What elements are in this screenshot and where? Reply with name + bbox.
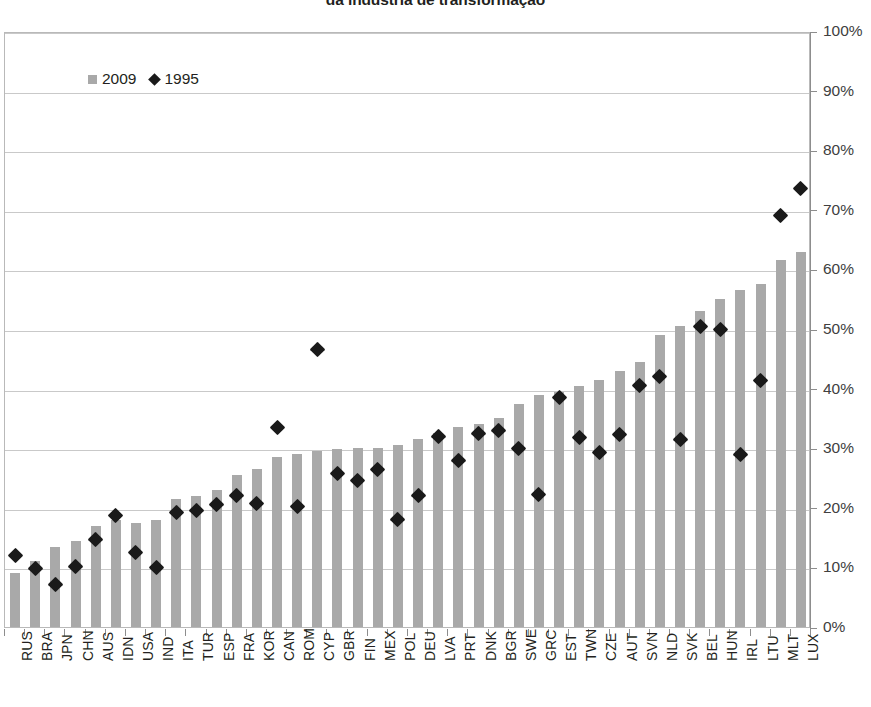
chart-column: [408, 33, 428, 627]
x-tick-label: CYP: [321, 639, 337, 659]
chart-column: [5, 33, 25, 627]
y-tick-label: 50%: [823, 320, 854, 338]
bar-2009: [514, 404, 524, 628]
bar-2009: [413, 439, 423, 627]
y-tick-mark: [810, 151, 817, 152]
chart-column: [86, 33, 106, 627]
y-tick-mark: [810, 628, 817, 629]
x-tick-label: AUS: [100, 639, 116, 659]
y-tick-mark: [810, 508, 817, 509]
y-tick-mark: [810, 449, 817, 450]
y-tick-label: 80%: [823, 141, 854, 159]
chart-column: [287, 33, 307, 627]
marker-1995: [793, 181, 809, 197]
chart-column: [428, 33, 448, 627]
bar-2009: [292, 454, 302, 627]
x-tick-label: GRC: [543, 639, 559, 659]
chart-column: [650, 33, 670, 627]
x-tick-label: CHN: [80, 639, 96, 659]
chart-column: [45, 33, 65, 627]
x-axis-tick: [367, 629, 368, 636]
y-tick-mark: [810, 32, 817, 33]
chart-column: [368, 33, 388, 627]
x-tick-label: LUX: [805, 639, 821, 659]
x-tick-label: FRA: [241, 639, 257, 659]
chart-column: [25, 33, 45, 627]
chart-column: [247, 33, 267, 627]
x-tick-label: BEL: [704, 639, 720, 659]
chart-column: [509, 33, 529, 627]
chart-column: [207, 33, 227, 627]
x-tick-label: HUN: [724, 639, 740, 659]
y-tick-label: 100%: [823, 22, 863, 40]
x-tick-label: BRA: [39, 639, 55, 659]
legend-square-icon: [88, 75, 97, 84]
bar-2009: [776, 260, 786, 627]
chart-column: [126, 33, 146, 627]
x-tick-label: TWN: [583, 639, 599, 659]
chart-column: [670, 33, 690, 627]
bar-2009: [111, 520, 121, 627]
x-axis-tick: [125, 629, 126, 636]
marker-1995: [773, 208, 789, 224]
bar-2009: [635, 362, 645, 627]
y-tick-label: 40%: [823, 380, 854, 398]
chart-title: da indústria de transformação: [0, 0, 871, 9]
y-tick-label: 0%: [823, 618, 845, 636]
bar-2009: [675, 326, 685, 627]
legend-label: 1995: [164, 70, 198, 88]
marker-1995: [310, 342, 326, 358]
x-tick-label: SVN: [644, 639, 660, 659]
x-axis-tick: [185, 629, 186, 636]
chart-column: [730, 33, 750, 627]
chart-column: [549, 33, 569, 627]
bar-2009: [594, 380, 604, 627]
x-tick-label: EST: [563, 639, 579, 659]
y-tick-mark: [810, 389, 817, 390]
chart-column: [227, 33, 247, 627]
bar-2009: [615, 371, 625, 627]
bar-2009: [494, 418, 504, 627]
bar-2009: [433, 433, 443, 627]
chart-column: [630, 33, 650, 627]
y-tick-label: 30%: [823, 439, 854, 457]
chart-column: [307, 33, 327, 627]
legend-label: 2009: [102, 70, 136, 88]
plot-frame: [4, 32, 810, 628]
x-tick-label: FIN: [362, 639, 378, 659]
x-tick-label: DEU: [422, 639, 438, 659]
x-tick-label: CZE: [603, 639, 619, 659]
x-tick-label: SWE: [523, 639, 539, 659]
x-axis: RUSBRAJPNCHNAUSIDNUSAINDITATURESPFRAKORC…: [4, 629, 810, 707]
chart-column: [65, 33, 85, 627]
y-tick-mark: [810, 270, 817, 271]
chart-column: [610, 33, 630, 627]
y-tick-label: 10%: [823, 558, 854, 576]
x-tick-label: GBR: [341, 639, 357, 659]
y-tick-label: 70%: [823, 201, 854, 219]
x-tick-label: IDN: [120, 639, 136, 659]
x-tick-label: MLT: [785, 639, 801, 659]
bar-2009: [393, 445, 403, 627]
x-axis-tick: [447, 629, 448, 636]
x-tick-label: ESP: [221, 639, 237, 659]
x-tick-label: RUS: [19, 639, 35, 659]
bar-2009: [272, 457, 282, 627]
bar-2009: [574, 386, 584, 627]
legend-entry-2009: 2009: [88, 70, 136, 88]
x-tick-label: BGR: [503, 639, 519, 659]
x-axis-tick: [165, 629, 166, 636]
y-tick-mark: [810, 330, 817, 331]
chart-column: [166, 33, 186, 627]
y-tick-label: 60%: [823, 260, 854, 278]
legend-entry-1995: 1995: [150, 70, 198, 88]
chart-legend: 20091995: [88, 70, 199, 88]
x-tick-label: CAN: [281, 639, 297, 659]
chart-column: [589, 33, 609, 627]
y-tick-mark: [810, 210, 817, 211]
x-axis-tick: [750, 629, 751, 636]
bar-2009: [312, 451, 322, 627]
chart-column: [690, 33, 710, 627]
marker-1995: [7, 548, 23, 564]
bar-2009: [715, 299, 725, 627]
